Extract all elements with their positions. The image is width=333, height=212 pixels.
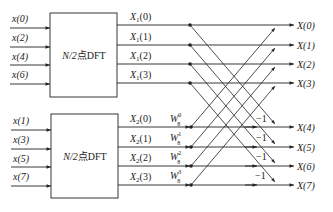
x1-label: X1(3) [129, 69, 151, 82]
dft-block-bottom-label: N/2点DFT [62, 151, 106, 162]
output-label: X(4) [296, 122, 315, 134]
input-label: x(7) [12, 171, 30, 183]
minus-one-label: −1 [256, 113, 267, 124]
x1-label: X1(1) [129, 31, 151, 44]
twiddle-factor: W08 [170, 112, 181, 127]
output-label: X(1) [296, 40, 315, 52]
output-label: X(2) [296, 59, 315, 71]
twiddle-factor: W38 [170, 169, 181, 184]
input-label: x(1) [12, 115, 30, 127]
twiddle-factor: W28 [170, 150, 181, 165]
twiddle-factor: W18 [170, 131, 181, 146]
minus-one-label: −1 [256, 151, 267, 162]
input-label: x(3) [12, 134, 30, 146]
output-label: X(6) [296, 161, 315, 173]
input-label: x(4) [11, 51, 29, 63]
output-label: X(7) [296, 180, 315, 192]
minus-one-label: −1 [256, 132, 267, 143]
minus-one-label: −1 [255, 170, 266, 181]
output-label: X(3) [296, 78, 315, 90]
x2-label: X2(3) [129, 171, 151, 184]
x1-label: X1(0) [129, 11, 151, 24]
input-label: x(0) [11, 13, 29, 25]
x2-label: X2(2) [129, 152, 151, 165]
x2-label: X2(1) [129, 133, 151, 146]
input-label: x(6) [11, 69, 29, 81]
butterfly-diagram: N/2点DFT N/2点DFT x(0) x(2) x(4) x(6) x(1)… [0, 0, 333, 212]
input-label: x(5) [12, 153, 30, 165]
x1-label: X1(2) [129, 50, 151, 63]
output-label: X(0) [296, 20, 315, 32]
dft-block-top-label: N/2点DFT [61, 50, 105, 61]
input-label: x(2) [11, 32, 29, 44]
output-label: X(5) [296, 142, 315, 154]
x2-label: X2(0) [129, 113, 151, 126]
